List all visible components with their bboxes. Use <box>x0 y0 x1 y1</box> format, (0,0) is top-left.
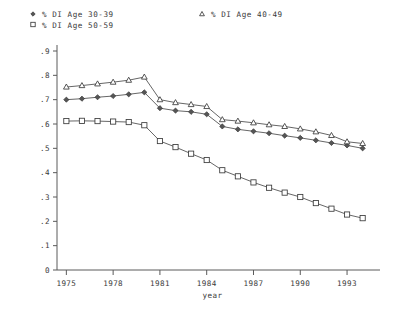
series-2-point-15-square-icon <box>298 194 303 199</box>
series-2-point-10-square-icon <box>220 168 225 173</box>
line-chart: % DI Age 30-39% DI Age 50-59% DI Age 40-… <box>0 0 398 309</box>
x-tick-label-2: 1981 <box>150 279 170 288</box>
series-0-point-19-diamond-icon <box>360 146 365 151</box>
series-2-point-12-square-icon <box>251 180 256 185</box>
series-0-point-17-diamond-icon <box>329 140 334 145</box>
y-tick-label-1: .1 <box>40 241 50 250</box>
series-2-point-18-square-icon <box>344 212 349 217</box>
series-0-point-7-diamond-icon <box>173 108 178 113</box>
legend-label-2: % DI Age 40-49 <box>211 10 283 19</box>
x-tick-label-6: 1993 <box>337 279 357 288</box>
series-0-point-0-diamond-icon <box>64 97 69 102</box>
x-tick-label-5: 1990 <box>290 279 310 288</box>
series-0-point-13-diamond-icon <box>266 131 271 136</box>
series-0-point-14-diamond-icon <box>282 133 287 138</box>
series-0-point-16-diamond-icon <box>313 138 318 143</box>
legend-marker-diamond-icon <box>31 12 35 16</box>
series-2-point-2-square-icon <box>95 118 100 123</box>
series-2-point-3-square-icon <box>111 119 116 124</box>
series-2-point-13-square-icon <box>266 185 271 190</box>
y-tick-label-8: .8 <box>40 71 50 80</box>
series-2-point-6-square-icon <box>157 138 162 143</box>
legend-label-1: % DI Age 50-59 <box>42 21 114 30</box>
y-tick-label-7: .7 <box>40 95 50 104</box>
y-tick-label-0: 0 <box>45 266 50 275</box>
y-tick-label-5: .5 <box>40 144 50 153</box>
series-0-point-3-diamond-icon <box>111 93 116 98</box>
x-tick-label-3: 1984 <box>197 279 217 288</box>
x-axis-title: year <box>203 291 223 300</box>
y-tick-label-4: .4 <box>40 168 50 177</box>
series-2-point-5-square-icon <box>142 123 147 128</box>
y-tick-label-6: .6 <box>40 120 50 129</box>
series-1-point-5-triangle-icon <box>141 74 147 79</box>
legend-label-0: % DI Age 30-39 <box>42 10 114 19</box>
series-2-point-1-square-icon <box>79 118 84 123</box>
legend-marker-triangle-icon <box>200 11 205 15</box>
y-tick-label-3: .3 <box>40 193 50 202</box>
series-2-point-0-square-icon <box>64 118 69 123</box>
x-tick-label-0: 1975 <box>56 279 76 288</box>
x-tick-label-4: 1987 <box>244 279 264 288</box>
series-0-point-11-diamond-icon <box>235 127 240 132</box>
series-2-point-14-square-icon <box>282 190 287 195</box>
series-2-point-19-square-icon <box>360 216 365 221</box>
series-0-point-15-diamond-icon <box>298 135 303 140</box>
y-tick-label-2: .2 <box>40 217 50 226</box>
series-2-point-16-square-icon <box>313 200 318 205</box>
series-2-point-8-square-icon <box>189 151 194 156</box>
series-2-point-7-square-icon <box>173 145 178 150</box>
legend-marker-square-icon <box>31 22 35 26</box>
series-0-point-8-diamond-icon <box>189 109 194 114</box>
series-0-point-4-diamond-icon <box>126 92 131 97</box>
series-2-point-4-square-icon <box>126 119 131 124</box>
series-0-point-2-diamond-icon <box>95 95 100 100</box>
series-2-point-11-square-icon <box>235 174 240 179</box>
series-0-point-1-diamond-icon <box>79 96 84 101</box>
y-tick-label-9: .9 <box>40 47 50 56</box>
series-0-point-12-diamond-icon <box>251 129 256 134</box>
series-2-point-9-square-icon <box>204 157 209 162</box>
chart-container: % DI Age 30-39% DI Age 50-59% DI Age 40-… <box>0 0 398 309</box>
series-2-point-17-square-icon <box>329 206 334 211</box>
x-tick-label-1: 1978 <box>103 279 123 288</box>
